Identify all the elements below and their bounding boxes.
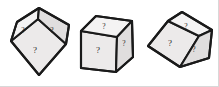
cube-3-front-label: ? [168,38,172,48]
cube-2: ? ? ? [81,16,133,72]
cubes-figure: ? ? ? ? ? ? ? ? [0,0,219,87]
cube-1-front-label: ? [33,45,37,55]
cubes-canvas: ? ? ? ? ? ? ? ? [0,0,219,87]
cube-2-front-label: ? [96,45,100,55]
